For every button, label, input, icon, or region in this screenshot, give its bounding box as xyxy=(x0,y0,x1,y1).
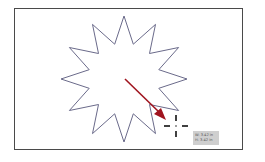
tooltip-height: H: 3.42 in xyxy=(195,138,217,143)
star-shape[interactable] xyxy=(61,16,187,142)
measurement-tooltip: W: 3.42 in H: 3.42 in xyxy=(193,131,219,145)
crosshair-cursor-icon xyxy=(164,115,188,137)
drawing-canvas[interactable] xyxy=(0,0,265,162)
